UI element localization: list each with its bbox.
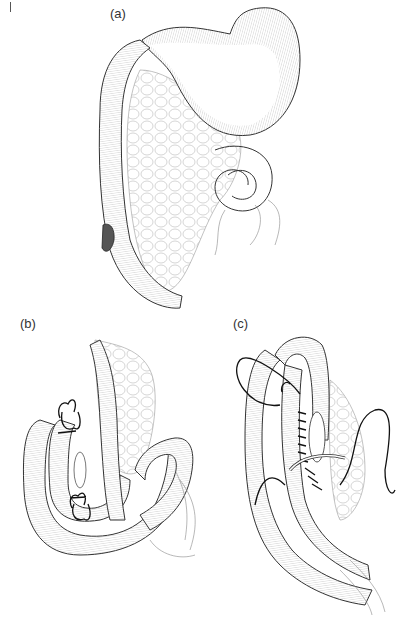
panel-b-drawing <box>23 340 195 557</box>
panel-c-drawing <box>237 337 395 615</box>
surgical-illustration <box>0 0 411 619</box>
panel-a-drawing <box>99 8 300 308</box>
